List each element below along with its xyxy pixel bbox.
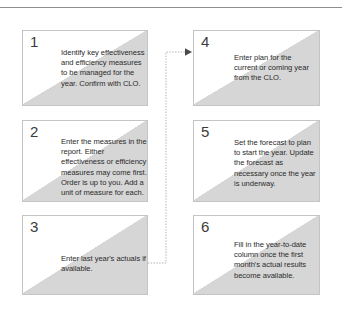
step-box-2[interactable]: 2 Enter the measures in the report. Eith… [22,120,148,202]
step-number-5: 5 [201,124,210,140]
step-box-1[interactable]: 1 Identify key effectiveness and efficie… [22,30,148,106]
step-number-6: 6 [201,219,210,235]
step-text-1: Identify key effectiveness and efficienc… [61,48,145,89]
step-box-3[interactable]: 3 Enter last year's actuals if available… [22,215,148,295]
arrowhead-icon [185,48,192,56]
step-text-3: Enter last year's actuals if available. [61,254,147,274]
step-text-6: Fill in the year-to-date column once the… [234,240,318,281]
step-number-2: 2 [30,124,39,140]
step-box-4[interactable]: 4 Enter plan for the current or coming y… [193,30,320,106]
step-box-5[interactable]: 5 Set the forecast to plan to start the … [193,120,320,202]
step-text-4: Enter plan for the current or coming yea… [234,53,316,84]
step-text-2: Enter the measures in the report. Either… [61,137,147,198]
connector-path [148,52,186,263]
step-number-4: 4 [201,34,210,50]
process-flow-diagram: 1 Identify key effectiveness and efficie… [0,0,342,319]
step-text-5: Set the forecast to plan to start the ye… [234,138,318,189]
step-box-6[interactable]: 6 Fill in the year-to-date column once t… [193,215,320,295]
step-number-3: 3 [30,219,39,235]
step-number-1: 1 [30,34,39,50]
